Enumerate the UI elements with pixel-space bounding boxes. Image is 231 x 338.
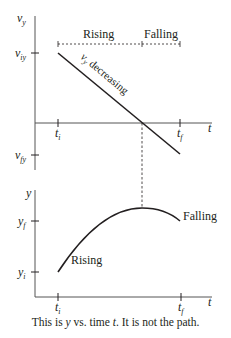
viy-label: viy xyxy=(15,46,27,62)
figure-caption: This is y vs. time t. It is not the path… xyxy=(0,316,231,328)
caption-text: . It is not the path. xyxy=(116,316,199,328)
rising-phase-label: Rising xyxy=(83,27,114,41)
tf-label-bottom: tf xyxy=(178,300,185,316)
tf-label-top: tf xyxy=(177,126,184,142)
yf-label: yf xyxy=(17,214,27,230)
caption-text: This is xyxy=(32,316,66,328)
vy-axis-label: vy xyxy=(17,11,26,27)
caption-text: vs. time xyxy=(71,316,113,328)
vy-line xyxy=(58,53,180,154)
rising-curve-label: Rising xyxy=(71,253,102,267)
vy-vs-t-graph: vy t viy vfy ti tf Rising Falling vy dec… xyxy=(15,11,212,170)
falling-curve-label: Falling xyxy=(183,209,217,223)
ti-label-top: ti xyxy=(55,126,61,142)
motion-graphs-diagram: vy t viy vfy ti tf Rising Falling vy dec… xyxy=(0,0,231,338)
falling-phase-label: Falling xyxy=(144,27,178,41)
yi-label: yi xyxy=(17,265,26,281)
y-axis-label: y xyxy=(25,186,32,200)
ti-label-bottom: ti xyxy=(55,300,61,316)
y-vs-t-graph: y t yf yi ti tf Rising Falling xyxy=(17,186,217,316)
vfy-label: vfy xyxy=(15,148,27,164)
